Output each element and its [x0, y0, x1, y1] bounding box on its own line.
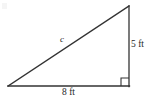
right-triangle-figure: c 5 ft 8 ft	[0, 0, 151, 106]
hypotenuse-label: c	[60, 35, 64, 44]
hypotenuse-line	[8, 6, 129, 86]
triangle-drawing	[0, 0, 151, 106]
right-angle-square-icon	[121, 78, 129, 86]
vertical-leg-label: 5 ft	[131, 40, 144, 50]
horizontal-leg-label: 8 ft	[62, 88, 75, 98]
